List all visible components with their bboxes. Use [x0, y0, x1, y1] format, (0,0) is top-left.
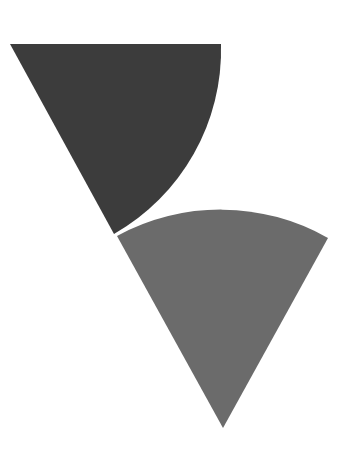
dark-sector-shape [10, 44, 221, 234]
light-sector-shape [117, 210, 328, 428]
diagram-canvas [0, 0, 350, 467]
